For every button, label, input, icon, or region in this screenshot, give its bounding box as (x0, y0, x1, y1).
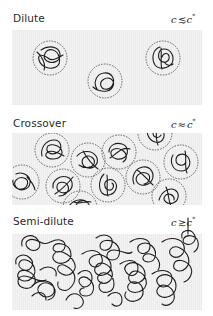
coil-f (138, 133, 172, 150)
coil-c (46, 169, 80, 203)
coil-k (63, 191, 97, 205)
semi-dilute-network (12, 234, 202, 310)
coil-g (91, 168, 125, 202)
coil-1 (33, 41, 67, 75)
coil-a (35, 133, 69, 167)
coil-j (152, 179, 186, 205)
coil-i (164, 145, 198, 179)
semi-dilute-label: Semi-dilute (13, 215, 74, 227)
crossover-panel (12, 133, 202, 205)
coil-e (102, 135, 136, 169)
semi-dilute-panel (12, 234, 202, 310)
semi-dilute-condition: c≳c* (171, 215, 195, 228)
dilute-label: Dilute (13, 12, 45, 24)
coil-2 (88, 64, 122, 98)
dilute-panel (12, 30, 202, 105)
coil-3 (146, 41, 180, 75)
crossover-coils (12, 133, 202, 205)
dilute-coils (12, 30, 202, 105)
coil-d (71, 143, 105, 177)
crossover-condition: c≈c* (171, 117, 196, 130)
coil-h (126, 160, 160, 194)
coil-b (12, 165, 39, 199)
dilute-condition: c≲c* (171, 12, 195, 25)
crossover-label: Crossover (13, 117, 66, 129)
